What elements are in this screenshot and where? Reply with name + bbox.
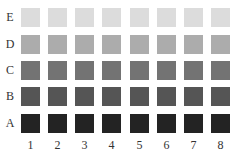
column-label-4: 4 xyxy=(102,138,121,153)
swatch-e1 xyxy=(21,8,40,27)
swatch-a5 xyxy=(130,114,149,133)
swatch-e2 xyxy=(48,8,67,27)
swatch-d7 xyxy=(184,35,203,54)
swatch-d6 xyxy=(157,35,176,54)
swatch-c6 xyxy=(157,61,176,80)
swatch-c1 xyxy=(21,61,40,80)
column-label-7: 7 xyxy=(184,138,203,153)
swatch-e4 xyxy=(102,8,121,27)
swatch-b2 xyxy=(48,87,67,106)
swatch-b3 xyxy=(75,87,94,106)
swatch-b1 xyxy=(21,87,40,106)
swatch-a6 xyxy=(157,114,176,133)
row-label-e: E xyxy=(5,8,15,26)
column-label-1: 1 xyxy=(21,138,40,153)
swatch-e8 xyxy=(211,8,230,27)
swatch-d4 xyxy=(102,35,121,54)
column-label-5: 5 xyxy=(130,138,149,153)
column-label-8: 8 xyxy=(211,138,230,153)
swatch-d5 xyxy=(130,35,149,54)
swatch-e6 xyxy=(157,8,176,27)
swatch-e7 xyxy=(184,8,203,27)
row-label-c: C xyxy=(5,61,15,79)
swatch-b6 xyxy=(157,87,176,106)
swatch-d1 xyxy=(21,35,40,54)
swatch-c3 xyxy=(75,61,94,80)
swatch-c7 xyxy=(184,61,203,80)
swatch-c4 xyxy=(102,61,121,80)
swatch-a4 xyxy=(102,114,121,133)
swatch-e5 xyxy=(130,8,149,27)
swatch-a7 xyxy=(184,114,203,133)
column-label-2: 2 xyxy=(48,138,67,153)
swatch-d3 xyxy=(75,35,94,54)
column-label-6: 6 xyxy=(157,138,176,153)
row-label-d: D xyxy=(5,35,15,53)
swatch-d8 xyxy=(211,35,230,54)
swatch-a1 xyxy=(21,114,40,133)
swatch-a2 xyxy=(48,114,67,133)
swatch-c8 xyxy=(211,61,230,80)
swatch-b8 xyxy=(211,87,230,106)
row-label-b: B xyxy=(5,87,15,105)
swatch-a8 xyxy=(211,114,230,133)
column-label-3: 3 xyxy=(75,138,94,153)
swatch-c5 xyxy=(130,61,149,80)
swatch-b4 xyxy=(102,87,121,106)
swatch-e3 xyxy=(75,8,94,27)
swatch-c2 xyxy=(48,61,67,80)
swatch-d2 xyxy=(48,35,67,54)
swatch-a3 xyxy=(75,114,94,133)
swatch-b5 xyxy=(130,87,149,106)
row-label-a: A xyxy=(5,114,15,132)
swatch-b7 xyxy=(184,87,203,106)
